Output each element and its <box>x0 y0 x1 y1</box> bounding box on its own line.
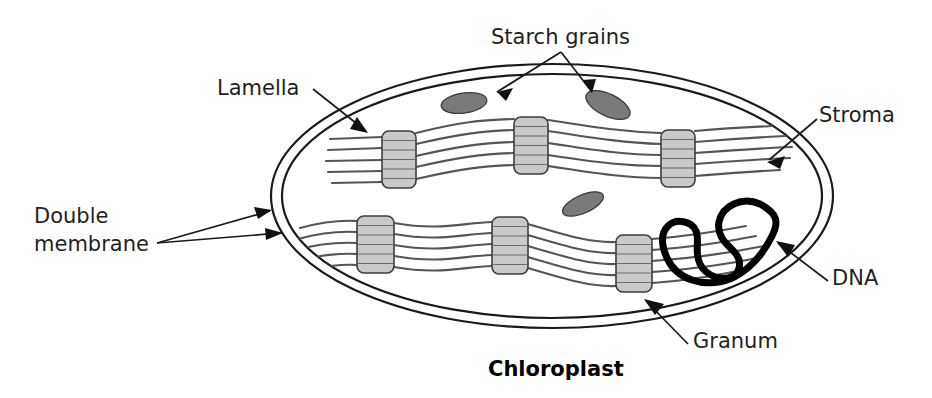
granum-top-2 <box>514 117 548 174</box>
chloroplast-diagram: Starch grains Lamella Stroma DNA Granum … <box>0 0 932 398</box>
label-dna: DNA <box>832 266 879 290</box>
label-chloroplast-title: Chloroplast <box>488 357 624 381</box>
label-stroma: Stroma <box>819 103 895 127</box>
label-lamella: Lamella <box>217 76 299 100</box>
granum-bottom-3 <box>616 235 652 292</box>
double-membrane-group <box>271 64 833 328</box>
label-double-membrane-line2: membrane <box>34 232 149 256</box>
label-starch-grains: Starch grains <box>491 25 630 49</box>
granum-bottom-1 <box>357 216 394 273</box>
granum-top-3 <box>661 130 695 187</box>
granum-bottom-2 <box>492 217 528 274</box>
label-double-membrane-line1: Double <box>34 204 108 228</box>
arrowhead-membrane-outer <box>254 207 272 219</box>
outer-membrane-ellipse <box>271 64 833 328</box>
chloroplast-svg-canvas: Starch grains Lamella Stroma DNA Granum … <box>0 0 932 398</box>
leader-double-membrane <box>157 207 283 243</box>
granum-top-1 <box>382 131 416 188</box>
label-granum: Granum <box>693 329 778 353</box>
